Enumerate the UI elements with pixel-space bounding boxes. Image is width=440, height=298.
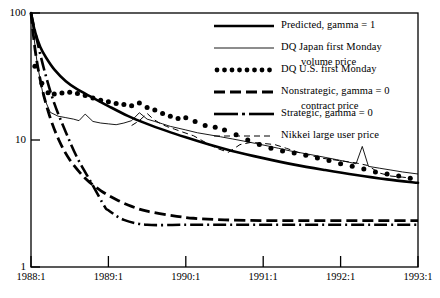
legend-swatch xyxy=(213,86,275,98)
legend-swatch xyxy=(213,20,275,32)
legend-key-dashed-thick xyxy=(213,86,275,98)
chart-figure: 100101 1988:11989:11990:11991:11992:1199… xyxy=(0,0,440,298)
legend-key-dotted xyxy=(213,64,275,76)
legend-key-dashdot xyxy=(213,108,275,120)
x-tick-label: 1990:1 xyxy=(156,271,216,282)
legend-swatch xyxy=(213,108,275,120)
legend-label: Nonstrategic, gamma = 0 xyxy=(281,85,390,96)
y-tick-label: 10 xyxy=(0,133,26,145)
legend-label: Strategic, gamma = 0 xyxy=(281,107,373,118)
legend-swatch xyxy=(213,130,275,142)
legend-label: Predicted, gamma = 1 xyxy=(281,19,375,30)
x-tick-label: 1989:1 xyxy=(78,271,138,282)
legend-swatch xyxy=(213,64,275,76)
legend-key-solid-thin xyxy=(213,42,275,54)
legend-swatch xyxy=(213,42,275,54)
chart-legend: Predicted, gamma = 1DQ Japan first Monda… xyxy=(213,12,428,150)
x-tick-label: 1992:1 xyxy=(311,271,371,282)
legend-key-solid-thick xyxy=(213,20,275,32)
legend-label: DQ U.S. first Monday xyxy=(281,63,377,74)
legend-key-dashed-thin xyxy=(213,130,275,142)
x-tick-label: 1991:1 xyxy=(233,271,293,282)
y-tick-label: 100 xyxy=(0,6,26,18)
x-tick-label: 1988:1 xyxy=(1,271,61,282)
legend-label: DQ Japan first Monday xyxy=(281,41,382,52)
x-tick-label: 1993:1 xyxy=(388,271,440,282)
legend-label: Nikkei large user price xyxy=(281,129,379,140)
